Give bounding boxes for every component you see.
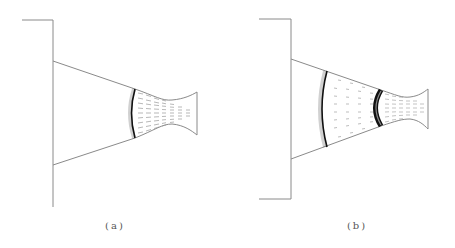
nozzle-top-wall-a — [135, 89, 197, 100]
caption-b: (b) — [337, 220, 377, 231]
cone-bottom-edge-b — [291, 126, 381, 159]
cone-top-edge-b — [291, 59, 381, 90]
velocity-vectors-mid-b — [334, 80, 373, 137]
velocity-vectors-a — [138, 93, 190, 133]
wall-outline-a — [22, 20, 53, 207]
wall-outline-b — [259, 19, 291, 199]
nozzle-bottom-wall-b — [381, 119, 428, 129]
caption-a: (a) — [95, 220, 135, 231]
cone-top-edge-a — [53, 61, 135, 89]
nozzle-top-wall-b — [381, 89, 428, 97]
panel-a — [22, 20, 197, 207]
nozzle-bottom-wall-a — [135, 124, 197, 138]
panel-b — [259, 19, 428, 199]
velocity-vectors-nozzle-b — [385, 94, 424, 122]
figure-canvas — [0, 0, 455, 248]
cone-bottom-edge-a — [53, 138, 135, 165]
